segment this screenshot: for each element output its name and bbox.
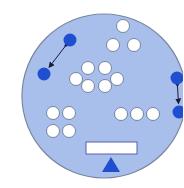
white-ball: [107, 39, 120, 52]
white-ball: [147, 108, 160, 121]
white-ball: [82, 62, 95, 75]
white-ball: [117, 20, 130, 33]
white-ball: [63, 125, 76, 138]
white-ball: [82, 80, 95, 93]
white-ball: [63, 107, 76, 120]
white-ball: [99, 62, 112, 75]
diagram-canvas: [0, 0, 183, 188]
blue-ball: [171, 72, 184, 85]
white-ball: [115, 108, 128, 121]
white-ball: [70, 73, 83, 86]
white-ball: [47, 107, 60, 120]
white-ball: [128, 39, 141, 52]
white-group-right-row: [115, 108, 160, 121]
balance-plate: [86, 142, 137, 154]
white-ball: [47, 125, 60, 138]
white-ball: [111, 73, 124, 86]
white-ball: [99, 80, 112, 93]
blue-ball: [38, 68, 51, 81]
white-ball: [131, 108, 144, 121]
blue-ball: [64, 34, 77, 47]
